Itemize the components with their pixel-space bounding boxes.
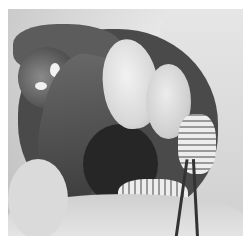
dissection-photo bbox=[8, 9, 243, 236]
glove-left bbox=[8, 159, 68, 236]
highlight bbox=[35, 82, 47, 90]
